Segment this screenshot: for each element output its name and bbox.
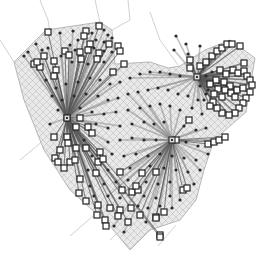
demand-point-dot — [178, 198, 181, 201]
demand-point-dot — [198, 44, 201, 47]
demand-point-dot — [198, 168, 201, 171]
facility-square-node — [234, 87, 240, 93]
demand-point-dot — [130, 122, 133, 125]
street-line — [0, 0, 29, 259]
street-line — [0, 0, 36, 259]
demand-point-dot — [186, 170, 189, 173]
facility-square-node — [186, 117, 192, 123]
demand-point-dot — [168, 72, 171, 75]
facility-square-node — [216, 137, 222, 143]
demand-point-dot — [142, 138, 145, 141]
demand-point-dot — [194, 128, 197, 131]
street-line — [267, 0, 273, 259]
demand-point-dot — [82, 138, 85, 141]
demand-point-dot — [22, 54, 25, 57]
facility-square-node — [73, 124, 79, 130]
demand-point-dot — [114, 180, 117, 183]
demand-point-dot — [168, 194, 171, 197]
facility-square-node — [221, 79, 227, 85]
facility-square-node — [96, 23, 102, 29]
street-line — [225, 0, 273, 259]
demand-point-dot — [146, 206, 149, 209]
demand-point-dot — [142, 194, 145, 197]
facility-square-node — [45, 29, 51, 35]
street-line — [232, 0, 273, 259]
facility-square-node — [78, 56, 84, 62]
facility-square-node — [77, 176, 83, 182]
street-line — [246, 0, 273, 259]
road-line — [95, 0, 100, 22]
facility-square-node — [214, 105, 220, 111]
demand-point-dot — [92, 194, 95, 197]
demand-point-dot — [146, 154, 149, 157]
demand-point-dot — [146, 88, 149, 91]
demand-point-dot — [88, 184, 91, 187]
facility-square-node — [64, 134, 70, 140]
facility-square-node — [157, 234, 163, 240]
demand-point-dot — [186, 94, 189, 97]
road-line — [40, 0, 50, 32]
demand-point-dot — [144, 220, 147, 223]
demand-point-dot — [126, 108, 129, 111]
demand-point-dot — [88, 76, 91, 79]
street-line — [0, 0, 1, 259]
street-line — [260, 0, 273, 259]
demand-point-dot — [128, 166, 131, 169]
demand-point-dot — [98, 78, 101, 81]
demand-point-dot — [204, 92, 207, 95]
demand-point-dot — [60, 98, 63, 101]
facility-square-node — [197, 63, 203, 69]
demand-point-dot — [118, 80, 121, 83]
demand-point-dot — [90, 31, 93, 34]
demand-point-dot — [58, 31, 61, 34]
demand-point-dot — [96, 94, 99, 97]
demand-point-dot — [198, 84, 201, 87]
facility-square-node — [153, 169, 159, 175]
demand-point-dot — [158, 152, 161, 155]
demand-point-dot — [184, 140, 187, 143]
demand-point-dot — [138, 106, 141, 109]
demand-point-dot — [84, 92, 87, 95]
street-line — [0, 0, 29, 259]
facility-square-node — [187, 65, 193, 71]
facility-square-node — [207, 103, 213, 109]
facility-square-node — [223, 71, 229, 77]
facility-square-node — [222, 134, 228, 140]
street-line — [225, 0, 273, 259]
facility-square-node — [87, 41, 93, 47]
demand-point-dot — [158, 70, 161, 73]
facility-square-node — [89, 130, 95, 136]
hub-center-mark — [66, 117, 68, 119]
demand-point-dot — [194, 158, 197, 161]
demand-point-dot — [44, 78, 47, 81]
demand-point-dot — [86, 168, 89, 171]
demand-point-dot — [106, 126, 109, 129]
demand-point-dot — [170, 206, 173, 209]
demand-point-dot — [144, 180, 147, 183]
demand-point-dot — [94, 122, 97, 125]
demand-point-dot — [106, 194, 109, 197]
facility-square-node — [77, 49, 83, 55]
demand-point-dot — [204, 126, 207, 129]
demand-point-dot — [94, 38, 97, 41]
demand-point-dot — [108, 82, 111, 85]
demand-point-dot — [174, 34, 177, 37]
facility-square-node — [207, 81, 213, 87]
demand-point-dot — [34, 42, 37, 45]
street-line — [253, 0, 273, 259]
demand-point-dot — [72, 94, 75, 97]
facility-square-node — [96, 50, 102, 56]
facility-square-node — [229, 41, 235, 47]
demand-point-dot — [118, 196, 121, 199]
facility-square-node — [121, 61, 127, 67]
facility-square-node — [119, 187, 125, 193]
demand-point-dot — [152, 122, 155, 125]
facility-square-node — [66, 52, 72, 58]
demand-point-dot — [106, 33, 109, 36]
demand-point-dot — [148, 164, 151, 167]
demand-point-dot — [168, 180, 171, 183]
street-line — [0, 0, 36, 259]
street-line — [0, 0, 1, 259]
facility-square-node — [211, 91, 217, 97]
demand-point-dot — [110, 50, 113, 53]
